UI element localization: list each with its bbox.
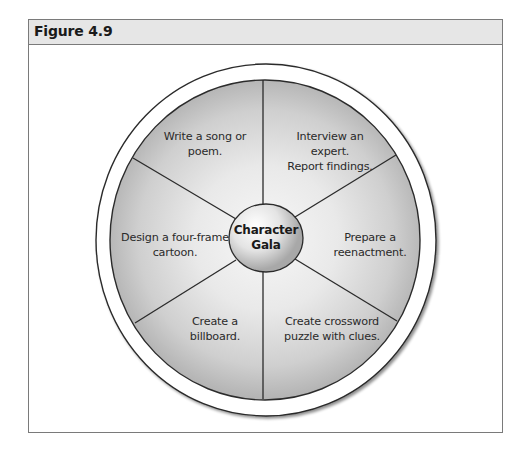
hub-label-line1: Character (226, 223, 306, 238)
segment-text-line: poem. (150, 144, 260, 159)
segment-text-line: Report findings. (275, 159, 385, 174)
segment-text-line: expert. (275, 144, 385, 159)
segment-text-line: reenactment. (315, 245, 425, 260)
segment-text-line: puzzle with clues. (267, 329, 397, 344)
hub-label-line2: Gala (226, 238, 306, 253)
segment-text-line: Write a song or (150, 129, 260, 144)
segment-text-line: billboard. (175, 329, 255, 344)
segment-label-bottom-right: Create crossword puzzle with clues. (267, 314, 397, 344)
segment-label-right: Prepare a reenactment. (315, 230, 425, 260)
hub-label: Character Gala (226, 223, 306, 253)
segment-text-line: Create crossword (267, 314, 397, 329)
segment-label-left: Design a four-frame cartoon. (113, 230, 237, 260)
segment-text-line: Prepare a (315, 230, 425, 245)
segment-label-top-right: Interview an expert. Report findings. (275, 129, 385, 174)
segment-label-top-left: Write a song or poem. (150, 129, 260, 159)
segment-text-line: Create a (175, 314, 255, 329)
segment-label-bottom-left: Create a billboard. (175, 314, 255, 344)
segment-text-line: Design a four-frame (113, 230, 237, 245)
segment-text-line: cartoon. (113, 245, 237, 260)
segment-text-line: Interview an (275, 129, 385, 144)
